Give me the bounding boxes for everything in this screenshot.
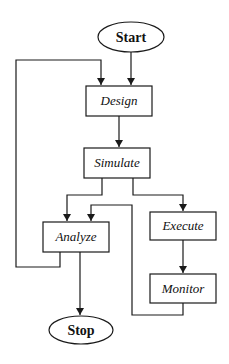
flowchart: Start Design Simulate Analyze Execute Mo…: [0, 0, 229, 364]
edge-simulate-analyze: [67, 178, 102, 221]
node-execute-label: Execute: [161, 218, 203, 233]
node-monitor: Monitor: [150, 274, 216, 303]
node-start-label: Start: [116, 30, 147, 45]
node-design-label: Design: [100, 93, 138, 108]
node-simulate-label: Simulate: [94, 155, 140, 170]
edge-simulate-execute: [133, 178, 183, 211]
node-monitor-label: Monitor: [161, 281, 206, 296]
node-stop-label: Stop: [67, 323, 94, 338]
node-execute: Execute: [150, 212, 216, 240]
node-analyze-label: Analyze: [54, 229, 96, 244]
node-design: Design: [86, 86, 152, 116]
node-analyze: Analyze: [43, 222, 109, 252]
node-simulate: Simulate: [84, 148, 150, 178]
node-stop: Stop: [49, 316, 113, 344]
node-start: Start: [98, 22, 164, 52]
